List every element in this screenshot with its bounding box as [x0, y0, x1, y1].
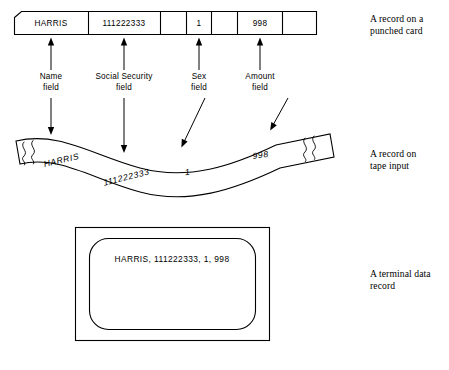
arrow-head-ssn-down — [121, 145, 127, 153]
field-label-amount-line1: Amount — [245, 72, 275, 81]
field-label-sex-line1: Sex — [192, 72, 207, 81]
arrow-line-amount-down — [273, 98, 289, 126]
card-cell-name: HARRIS — [34, 19, 67, 28]
caption-terminal-line2: record — [370, 280, 395, 291]
punched-card-group: HARRIS 111222333 1 998 — [15, 12, 317, 35]
field-label-amount-line2: field — [252, 83, 268, 92]
caption-tape-line1: A record on — [370, 148, 416, 159]
arrow-head-sex-down — [181, 139, 187, 148]
field-label-name-line2: field — [43, 83, 59, 92]
terminal-group: HARRIS, 111222333, 1, 998 — [76, 228, 270, 341]
card-cell-sex: 1 — [197, 19, 202, 28]
field-label-name-line1: Name — [40, 72, 63, 81]
tape-callout-arrows — [48, 98, 288, 153]
arrow-line-sex-down — [184, 98, 206, 143]
arrow-head-sex-up — [196, 38, 202, 46]
terminal-record-line: HARRIS, 111222333, 1, 998 — [115, 254, 230, 264]
arrow-head-name-down — [48, 127, 54, 135]
terminal-screen — [90, 239, 256, 330]
captions-group: A record on a punched card A record on t… — [370, 13, 431, 291]
field-label-sex-line2: field — [191, 83, 207, 92]
caption-tape-line2: tape input — [370, 160, 409, 171]
field-label-ssn-line2: field — [116, 83, 132, 92]
tape-value-sex: 1 — [184, 167, 191, 178]
field-labels-group: Name field Social Security field Sex fie… — [40, 72, 276, 92]
tape-group: HARRIS 111222333 1 998 — [16, 134, 334, 197]
card-cell-amount: 998 — [253, 19, 268, 28]
arrow-head-ssn-up — [121, 38, 127, 46]
arrow-head-name-up — [48, 38, 54, 46]
tape-body — [16, 134, 334, 197]
caption-punched-card-line1: A record on a — [370, 13, 424, 24]
arrow-head-amount-up — [257, 38, 263, 46]
field-label-ssn-line1: Social Security — [95, 72, 153, 81]
caption-punched-card-line2: punched card — [370, 25, 423, 36]
card-cell-ssn: 111222333 — [103, 19, 146, 28]
card-callout-arrows — [48, 38, 263, 71]
diagram-canvas: HARRIS 111222333 1 998 Name field Social… — [0, 0, 449, 370]
caption-terminal-line1: A terminal data — [370, 268, 431, 279]
